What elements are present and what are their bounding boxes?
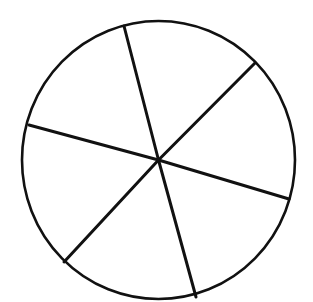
divided-circle-diagram bbox=[0, 0, 313, 302]
